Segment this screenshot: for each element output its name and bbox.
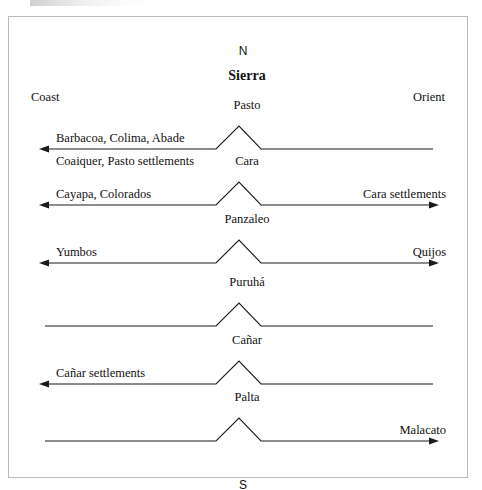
peak-label: Pasto bbox=[233, 99, 260, 112]
terrain-profile-line bbox=[48, 240, 430, 263]
arrowhead-left-icon bbox=[39, 380, 49, 387]
group-label-left: Cañar settlements bbox=[56, 367, 145, 380]
peak-label: Cañar bbox=[232, 334, 262, 347]
group-label-right: Malacato bbox=[399, 424, 446, 437]
peak-label: Palta bbox=[235, 391, 260, 404]
page-top-text-sliver bbox=[30, 0, 160, 6]
peak-label: Cara bbox=[235, 155, 259, 168]
peak-label: Puruhá bbox=[229, 276, 264, 289]
arrowhead-left-icon bbox=[39, 259, 49, 266]
region-label-orient: Orient bbox=[413, 91, 445, 104]
terrain-profile-line bbox=[45, 418, 430, 441]
diagram-frame: N Sierra Coast Orient PastoBarbacoa, Col… bbox=[8, 16, 468, 478]
figure-page: N Sierra Coast Orient PastoBarbacoa, Col… bbox=[0, 0, 482, 490]
arrowhead-right-icon bbox=[429, 437, 439, 444]
arrowhead-right-icon bbox=[429, 201, 439, 208]
compass-north-label: N bbox=[239, 45, 248, 57]
arrowhead-right-icon bbox=[429, 259, 439, 266]
compass-south-label: S bbox=[239, 479, 247, 490]
peak-label: Panzaleo bbox=[224, 213, 269, 226]
group-label-left-secondary: Coaiquer, Pasto settlements bbox=[56, 155, 194, 168]
group-label-left: Cayapa, Colorados bbox=[56, 188, 151, 201]
group-label-left: Yumbos bbox=[56, 246, 97, 259]
group-label-right: Cara settlements bbox=[363, 188, 446, 201]
terrain-profile-line bbox=[45, 303, 433, 326]
arrowhead-left-icon bbox=[39, 201, 49, 208]
group-label-right: Quijos bbox=[413, 246, 446, 259]
region-label-coast: Coast bbox=[31, 91, 59, 104]
region-title-sierra: Sierra bbox=[228, 69, 265, 83]
group-label-left: Barbacoa, Colima, Abade bbox=[56, 132, 184, 145]
arrowhead-left-icon bbox=[39, 145, 49, 152]
